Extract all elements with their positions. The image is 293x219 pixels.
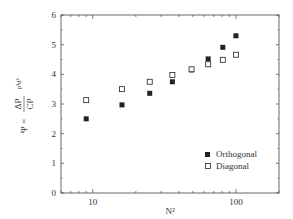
orthogonal-point (119, 102, 124, 107)
x-tick-label: 100 (229, 197, 243, 207)
y-tick-label: 0 (52, 188, 57, 198)
orthogonal-point (170, 79, 175, 84)
orthogonal-point (220, 45, 225, 50)
x-axis-ticks: 10100 (61, 15, 279, 207)
diagonal-point (84, 98, 89, 103)
orthogonal-point (206, 56, 211, 61)
y-axis-label: Ψ = ΔP CP ρ³d³ (13, 78, 35, 133)
y-tick-label: 2 (52, 129, 57, 139)
y-tick-label: 6 (52, 10, 57, 20)
orthogonal-point (147, 91, 152, 96)
diagonal-point (189, 67, 194, 72)
svg-text:ΔP: ΔP (13, 99, 23, 110)
legend-marker-orthogonal (205, 152, 210, 157)
orthogonal-point (233, 33, 238, 38)
diagonal-point (220, 57, 225, 62)
scatter-chart: 0123456 10100 N² Ψ = ΔP CP ρ³d³ Orthogon… (0, 0, 293, 219)
svg-text:CP: CP (25, 98, 35, 109)
diagonal-point (206, 62, 211, 67)
svg-text:ρ³d³: ρ³d³ (15, 78, 23, 89)
legend-label-orthogonal: Orthogonal (216, 149, 257, 159)
y-tick-label: 4 (52, 69, 57, 79)
diagonal-point (147, 79, 152, 84)
legend: Orthogonal Diagonal (205, 149, 257, 171)
legend-label-diagonal: Diagonal (216, 161, 249, 171)
y-tick-label: 3 (52, 99, 57, 109)
diagonal-point (170, 72, 175, 77)
diagonal-point (119, 87, 124, 92)
x-tick-label: 10 (88, 197, 98, 207)
orthogonal-point (84, 116, 89, 121)
data-points (84, 33, 239, 121)
x-axis-label: N² (165, 206, 174, 216)
svg-text:Ψ =: Ψ = (19, 119, 29, 133)
legend-marker-diagonal (206, 164, 211, 169)
y-tick-label: 1 (52, 158, 57, 168)
diagonal-point (233, 52, 238, 57)
y-tick-label: 5 (52, 40, 57, 50)
